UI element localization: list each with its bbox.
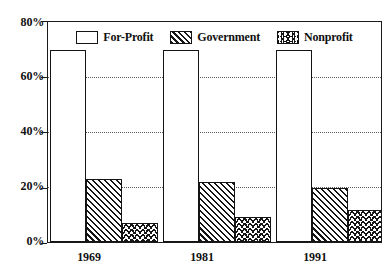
legend-label-government: Government [197,31,260,43]
legend-swatch-for-profit-icon [76,31,98,44]
plot-area: For-Profit Government Nonprofit [47,21,382,243]
bar-1969-for-profit [50,50,86,243]
bar-1991-for-profit [276,50,312,243]
legend-label-nonprofit: Nonprofit [304,31,353,43]
y-axis-tick-label-0: 0% [0,235,44,247]
x-axis-tick-label-1991: 1991 [255,250,375,265]
bar-1991-government [312,188,348,242]
bar-1981-for-profit [163,50,199,243]
bar-1981-government [199,182,235,243]
gridline-40 [48,132,381,133]
legend-item-nonprofit[interactable]: Nonprofit [277,31,353,44]
bar-1981-nonprofit [235,217,271,242]
bar-chart: 80% 60% 40% 20% 0% For-Profit [0,0,392,277]
gridline-60 [48,77,381,78]
legend-swatch-government-icon [170,31,192,44]
x-axis-tick-label-1981: 1981 [142,250,262,265]
y-axis-tick-label-80: 80% [0,16,44,28]
legend-swatch-nonprofit-icon [277,31,299,44]
legend-label-for-profit: For-Profit [103,31,153,43]
y-axis-tick-label-20: 20% [0,180,44,192]
x-axis-tick-label-1969: 1969 [29,250,149,265]
bar-1969-nonprofit [122,223,158,242]
y-axis-tick-label-60: 60% [0,70,44,82]
legend-item-for-profit[interactable]: For-Profit [76,31,153,44]
bar-1969-government [86,179,122,242]
bar-1991-nonprofit [348,210,382,242]
y-axis-tick-label-40: 40% [0,125,44,137]
legend-item-government[interactable]: Government [170,31,260,44]
chart-legend: For-Profit Government Nonprofit [48,26,381,48]
